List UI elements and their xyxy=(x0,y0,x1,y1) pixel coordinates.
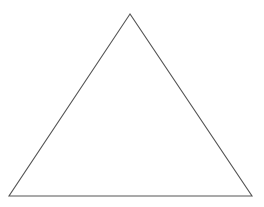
diagram-canvas xyxy=(0,0,264,207)
triangle-outline xyxy=(9,14,252,196)
triangle-figure xyxy=(0,0,264,207)
